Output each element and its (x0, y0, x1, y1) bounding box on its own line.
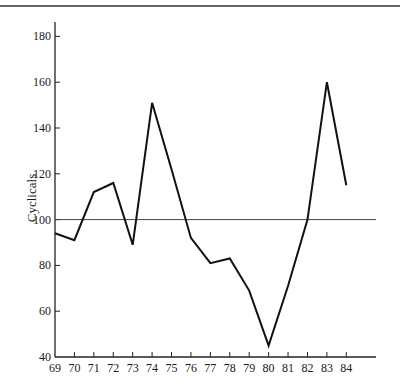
x-tick-label: 74 (146, 361, 158, 375)
y-tick-label: 180 (33, 29, 51, 43)
x-axis: 69707172737475767778798081828384 (49, 352, 376, 375)
x-tick-label: 80 (263, 361, 275, 375)
x-tick-label: 82 (301, 361, 313, 375)
x-tick-label: 73 (127, 361, 139, 375)
x-tick-label: 75 (166, 361, 178, 375)
y-tick-label: 60 (39, 304, 51, 318)
x-tick-label: 83 (321, 361, 333, 375)
x-tick-label: 69 (49, 361, 61, 375)
x-tick-label: 76 (185, 361, 197, 375)
cyclicals-line-chart: 406080100120140160180 697071727374757677… (0, 0, 400, 388)
x-tick-label: 72 (107, 361, 119, 375)
y-tick-label: 80 (39, 258, 51, 272)
y-axis-title: Cyclicals (24, 174, 39, 222)
x-tick-label: 78 (224, 361, 236, 375)
cyclicals-series-line (55, 82, 346, 345)
x-tick-label: 70 (68, 361, 80, 375)
x-tick-label: 84 (340, 361, 352, 375)
x-tick-label: 77 (204, 361, 216, 375)
y-tick-label: 140 (33, 121, 51, 135)
y-tick-label: 160 (33, 75, 51, 89)
x-tick-label: 81 (282, 361, 294, 375)
x-tick-label: 71 (88, 361, 100, 375)
x-tick-label: 79 (243, 361, 255, 375)
